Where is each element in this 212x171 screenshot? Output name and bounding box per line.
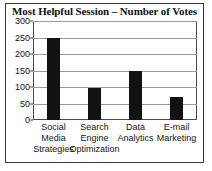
x-axis-labels: SocialMediaStrategiesSearchEngineOptimiz… [33,122,197,162]
x-axis-label-line: Optimization [64,144,126,155]
chart-figure: Most Helpful Session – Number of Votes 0… [5,3,204,163]
chart-title: Most Helpful Session – Number of Votes [6,5,203,18]
y-tick-mark [30,54,33,55]
y-tick-label: 300 [15,17,30,26]
y-tick-mark [30,21,33,22]
y-tick-mark [30,87,33,88]
plot-area: 050100150200250300 [33,21,197,120]
bar [170,97,183,120]
y-tick-mark [30,103,33,104]
y-tick-mark [30,37,33,38]
y-tick-label: 200 [15,50,30,59]
x-axis-label-line: E-mail [146,122,208,133]
y-tick-mark [30,70,33,71]
bar [129,71,142,120]
y-tick-mark [30,120,33,121]
y-tick-label: 150 [15,66,30,75]
x-axis-label: E-mailMarketing [146,122,208,144]
y-tick-label: 100 [15,83,30,92]
y-tick-label: 50 [20,99,30,108]
gridline [33,21,197,22]
bar [88,88,101,120]
y-tick-label: 250 [15,33,30,42]
x-axis-label-line: Marketing [146,133,208,144]
bar [47,38,60,121]
